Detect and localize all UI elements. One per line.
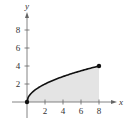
x-tick-label: 8 <box>97 106 102 116</box>
shaded-region <box>27 66 99 102</box>
y-axis-label: y <box>24 1 29 11</box>
x-axis-label: x <box>118 97 123 107</box>
y-tick-label: 8 <box>16 25 21 35</box>
endpoint-dot <box>25 100 29 104</box>
x-axis-arrow <box>111 100 117 104</box>
x-tick-label: 6 <box>79 106 84 116</box>
chart: x y 2468 2468 <box>0 0 129 124</box>
y-tick-label: 6 <box>16 43 21 53</box>
y-tick-label: 4 <box>16 61 21 71</box>
x-tick-label: 4 <box>61 106 66 116</box>
y-tick-label: 2 <box>16 79 21 89</box>
endpoint-dot <box>97 64 101 68</box>
x-tick-label: 2 <box>43 106 48 116</box>
y-axis-arrow <box>25 12 29 18</box>
y-ticks: 2468 <box>16 25 30 89</box>
